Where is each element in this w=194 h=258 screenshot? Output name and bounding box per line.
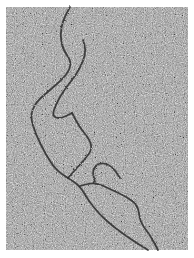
micrograph-image	[0, 0, 194, 258]
micrograph-frame	[0, 0, 194, 258]
